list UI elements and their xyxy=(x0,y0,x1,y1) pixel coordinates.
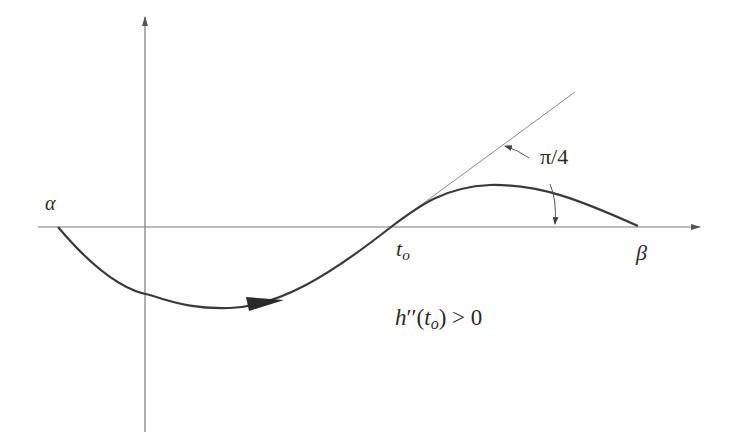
condition-h: h xyxy=(395,305,407,330)
t-o-label: to xyxy=(396,238,410,262)
direction-arrow-icon xyxy=(246,297,284,311)
t-o-subscript: o xyxy=(402,246,410,263)
condition-sub: o xyxy=(431,315,439,332)
angle-pointer-arrow xyxy=(505,146,529,158)
angle-label: π/4 xyxy=(540,146,568,168)
condition-label: h′′(to) > 0 xyxy=(395,306,482,332)
angle-arc-arrow xyxy=(550,184,555,224)
beta-label: β xyxy=(636,242,647,264)
condition-rest: > 0 xyxy=(446,305,482,330)
condition-primes: ′′ xyxy=(407,305,417,330)
function-diagram xyxy=(0,0,734,447)
alpha-label: α xyxy=(45,193,56,213)
